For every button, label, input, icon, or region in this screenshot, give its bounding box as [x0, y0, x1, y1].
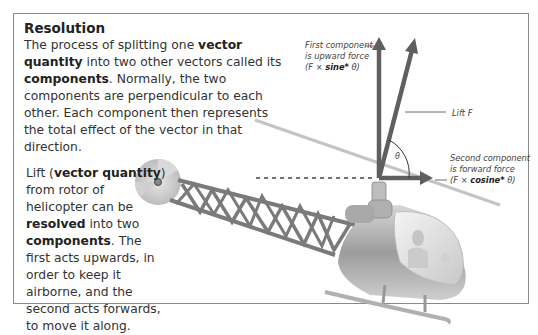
lift-paragraph: Lift (vector quantity) from rotor of hel…: [26, 165, 166, 335]
helicopter-body: [325, 182, 466, 323]
tail-boom: [170, 180, 355, 255]
theta-label: θ: [395, 152, 400, 161]
second-component-label: Second component is forward force (F × c…: [450, 153, 538, 186]
lift-label: Lift F: [452, 108, 473, 119]
first-component-label: First component is upward force (F × sin…: [305, 40, 385, 73]
intro-paragraph: The process of splitting one vector quan…: [24, 37, 284, 156]
title: Resolution: [24, 20, 105, 36]
